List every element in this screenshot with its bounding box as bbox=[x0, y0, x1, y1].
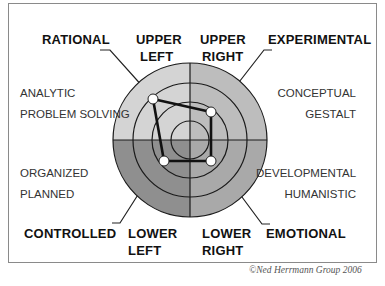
label-lower-left: LOWER LEFT bbox=[128, 225, 177, 259]
label-lower-right: LOWER RIGHT bbox=[202, 225, 251, 259]
point-upper-left bbox=[148, 94, 158, 104]
desc-upper-right: CONCEPTUAL GESTALT bbox=[276, 83, 356, 125]
label-emotional: EMOTIONAL bbox=[266, 227, 346, 240]
quadrant-upper-right bbox=[190, 63, 267, 140]
label-upper-left: UPPER LEFT bbox=[136, 31, 182, 65]
label-controlled: CONTROLLED bbox=[24, 227, 116, 240]
desc-lower-left: ORGANIZED PLANNED bbox=[20, 163, 88, 205]
desc-lower-right: DEVELOPMENTAL HUMANISTIC bbox=[256, 163, 356, 205]
point-lower-left bbox=[159, 156, 169, 166]
label-rational: RATIONAL bbox=[42, 33, 110, 46]
label-upper-right: UPPER RIGHT bbox=[200, 31, 246, 65]
quadrant-lower-left bbox=[113, 140, 190, 217]
copyright-notice: ©Ned Herrmann Group 2006 bbox=[249, 265, 362, 275]
desc-upper-left: ANALYTIC PROBLEM SOLVING bbox=[20, 83, 130, 125]
label-experimental: EXPERIMENTAL bbox=[268, 33, 371, 46]
point-upper-right bbox=[206, 107, 216, 117]
point-lower-right bbox=[206, 156, 216, 166]
